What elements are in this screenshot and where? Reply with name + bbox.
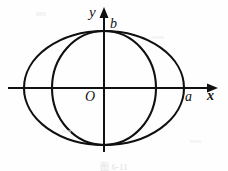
semi-minor-axis-label-b: b — [110, 17, 117, 31]
x-axis-label: x — [207, 89, 214, 103]
semi-major-axis-label-a: a — [185, 90, 192, 104]
ellipse-figure: y b O a x 图 6-11 — [0, 0, 228, 171]
origin-label: O — [85, 90, 95, 104]
figure-caption: 图 6-11 — [0, 160, 228, 171]
y-axis-label: y — [89, 5, 96, 20]
y-axis-arrowhead-icon — [100, 7, 109, 18]
